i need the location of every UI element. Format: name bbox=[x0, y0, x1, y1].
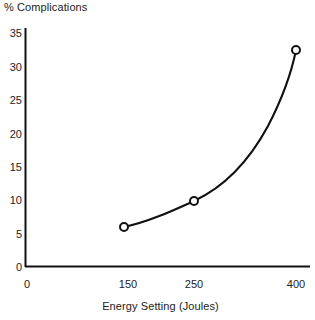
x-axis-title-wrap: Energy Setting (Joules) bbox=[0, 300, 315, 313]
x-axis-title: Energy Setting (Joules) bbox=[102, 300, 219, 313]
data-point-marker-150[interactable] bbox=[120, 223, 128, 231]
data-curve bbox=[124, 50, 296, 227]
chart-container: % Complications 35 30 25 20 15 10 5 0 0 … bbox=[0, 0, 315, 320]
data-point-marker-250[interactable] bbox=[190, 197, 198, 205]
data-point-marker-400[interactable] bbox=[292, 46, 300, 54]
plot-area bbox=[0, 0, 315, 320]
